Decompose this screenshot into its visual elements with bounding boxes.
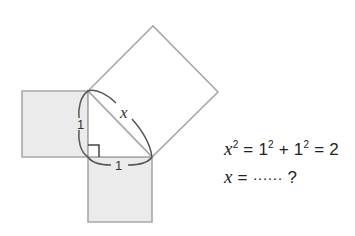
eq1-part-c: = 2 (309, 140, 339, 159)
vertical-leg-label: 1 (77, 117, 84, 132)
eq2-variable: x (224, 166, 233, 187)
equation-line-1: x2 = 12 + 12 = 2 (224, 138, 339, 160)
eq1-part-b: + 1 (274, 140, 304, 159)
pythagoras-diagram: 1 1 x (0, 0, 355, 236)
eq2-equals: = (233, 168, 253, 187)
eq2-question: ? (283, 168, 298, 187)
eq1-part-a: = 1 (238, 140, 268, 159)
equation-line-2: x = ······ ? (224, 166, 297, 188)
eq1-variable: x (224, 138, 233, 159)
hypotenuse-label: x (119, 103, 128, 122)
horizontal-leg-label: 1 (115, 158, 122, 173)
eq2-dots: ······ (253, 169, 283, 186)
